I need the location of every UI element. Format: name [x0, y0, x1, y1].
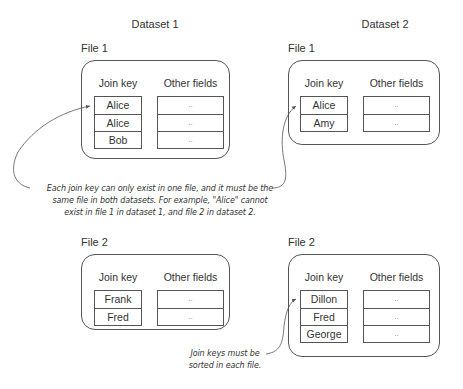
- join-key-header: Join key: [300, 77, 348, 89]
- other-fields-cell: ..: [364, 291, 429, 308]
- join-key-column: Alice Amy: [300, 96, 348, 132]
- other-fields-cell: ..: [364, 308, 429, 325]
- dataset-2-title: Dataset 2: [361, 18, 408, 30]
- other-fields-cell: ..: [158, 308, 223, 325]
- join-key-header: Join key: [94, 271, 142, 283]
- d1-file2-label: File 2: [81, 236, 108, 248]
- other-fields-column: .. ..: [157, 290, 224, 326]
- join-key-column: Dillon Fred George: [300, 290, 348, 343]
- other-fields-cell: ..: [158, 291, 223, 308]
- annotation-line: sorted in each file.: [175, 360, 275, 372]
- annotation-line: exist in file 1 in dataset 1, and file 2…: [30, 207, 290, 219]
- join-key-cell: Alice: [95, 114, 141, 131]
- join-key-cell: Fred: [301, 308, 347, 325]
- other-fields-header: Other fields: [157, 77, 224, 89]
- sorted-annotation: Join keys must be sorted in each file.: [175, 348, 275, 372]
- other-fields-column: .. .. ..: [363, 290, 430, 343]
- other-fields-header: Other fields: [157, 271, 224, 283]
- d2-file1-label: File 1: [288, 42, 315, 54]
- join-key-header: Join key: [94, 77, 142, 89]
- join-key-column: Alice Alice Bob: [94, 96, 142, 149]
- annotation-line: Join keys must be: [175, 348, 275, 360]
- join-key-column: Frank Fred: [94, 290, 142, 326]
- other-fields-cell: ..: [364, 325, 429, 342]
- same-file-annotation: Each join key can only exist in one file…: [30, 183, 290, 219]
- other-fields-cell: ..: [158, 97, 223, 114]
- d2-file2-label: File 2: [288, 236, 315, 248]
- annotation-line: same file in both datasets. For example,…: [30, 195, 290, 207]
- arrow-to-d1-alice: [14, 106, 90, 188]
- join-key-cell: Alice: [301, 97, 347, 114]
- other-fields-column: .. .. ..: [157, 96, 224, 149]
- other-fields-header: Other fields: [363, 271, 430, 283]
- join-key-cell: Dillon: [301, 291, 347, 308]
- other-fields-cell: ..: [364, 97, 429, 114]
- join-key-cell: George: [301, 325, 347, 342]
- other-fields-column: .. ..: [363, 96, 430, 132]
- other-fields-header: Other fields: [363, 77, 430, 89]
- dataset-1-title: Dataset 1: [131, 18, 178, 30]
- annotation-line: Each join key can only exist in one file…: [30, 183, 290, 195]
- d1-file1-label: File 1: [81, 42, 108, 54]
- other-fields-cell: ..: [158, 131, 223, 148]
- join-key-header: Join key: [300, 271, 348, 283]
- join-key-cell: Fred: [95, 308, 141, 325]
- join-key-cell: Amy: [301, 114, 347, 131]
- join-key-cell: Alice: [95, 97, 141, 114]
- join-key-cell: Bob: [95, 131, 141, 148]
- join-key-cell: Frank: [95, 291, 141, 308]
- other-fields-cell: ..: [364, 114, 429, 131]
- other-fields-cell: ..: [158, 114, 223, 131]
